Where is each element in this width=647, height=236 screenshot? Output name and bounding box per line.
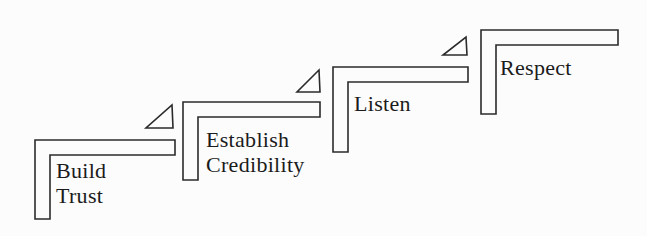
incline-triangle-icon xyxy=(146,105,173,128)
step-label-line: Trust xyxy=(56,183,106,208)
incline-triangle-icon xyxy=(297,70,320,92)
step-label-build-trust: Build Trust xyxy=(56,158,106,208)
staircase-diagram: Build Trust Establish Credibility Listen… xyxy=(0,0,647,236)
step-label-line: Build xyxy=(56,158,106,183)
step-label-line: Listen xyxy=(354,91,411,116)
step-label-listen: Listen xyxy=(354,91,411,116)
step-label-line: Credibility xyxy=(206,152,305,177)
step-label-respect: Respect xyxy=(500,55,572,80)
step-label-establish-credibility: Establish Credibility xyxy=(206,127,305,177)
step-label-line: Establish xyxy=(206,127,305,152)
step-label-line: Respect xyxy=(500,55,572,80)
incline-triangle-icon xyxy=(443,37,467,55)
